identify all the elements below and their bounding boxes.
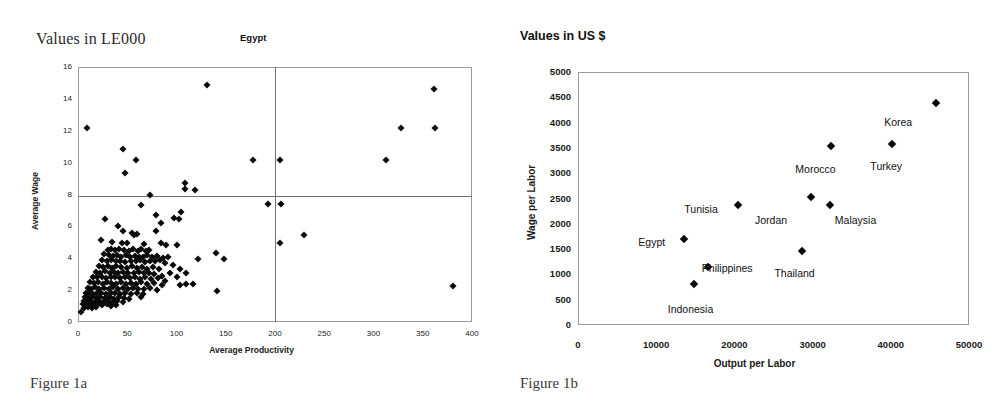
x-tick-label: 50000 (939, 339, 999, 350)
x-tick-label: 10000 (626, 339, 686, 350)
data-point-label-malaysia: Malaysia (835, 214, 876, 226)
data-point-label-indonesia: Indonesia (668, 303, 714, 315)
y-tick-label: 1500 (525, 243, 571, 254)
figure-1a: Values in LE000 Egypt 0246810121416 0501… (0, 0, 503, 403)
data-point-label-jordan: Jordan (755, 214, 787, 226)
y-tick-label: 4 (44, 253, 72, 262)
x-tick-label: 40000 (861, 339, 921, 350)
caption-a: Figure 1a (30, 375, 87, 392)
y-tick-label: 16 (44, 62, 72, 71)
reference-line-vertical (275, 67, 276, 322)
x-axis-label-b: Output per Labor (503, 358, 1006, 369)
x-tick-label: 30000 (783, 339, 843, 350)
data-point-label-tunisia: Tunisia (684, 203, 717, 215)
plot-area-b (578, 72, 969, 325)
x-tick-label: 350 (403, 329, 443, 338)
y-axis-label-a: Average Wage (30, 172, 40, 230)
x-tick-label: 0 (58, 329, 98, 338)
x-tick-label: 400 (452, 329, 492, 338)
data-point-label-morocco: Morocco (795, 163, 835, 175)
y-tick-label: 2 (44, 285, 72, 294)
data-point-label-philippines: Philippines (702, 262, 753, 274)
x-tick-label: 20000 (704, 339, 764, 350)
y-tick-label: 500 (525, 294, 571, 305)
y-tick-label: 4500 (525, 91, 571, 102)
y-tick-label: 0 (525, 319, 571, 330)
data-point-label-korea: Korea (884, 116, 912, 128)
data-point-label-thailand: Thailand (774, 267, 814, 279)
data-point-label-turkey: Turkey (870, 160, 902, 172)
x-tick-label: 0 (548, 339, 608, 350)
x-tick-label: 50 (107, 329, 147, 338)
y-tick-label: 3500 (525, 142, 571, 153)
x-axis-label-a: Average Productivity (0, 345, 503, 355)
y-tick-label: 6 (44, 221, 72, 230)
y-tick-label: 8 (44, 190, 72, 199)
x-tick-label: 150 (206, 329, 246, 338)
units-note-a: Values in LE000 (36, 30, 146, 48)
x-tick-label: 250 (304, 329, 344, 338)
y-axis-label-b: Wage per Labor (526, 165, 537, 240)
data-point-label-egypt: Egypt (638, 236, 665, 248)
chart-title-a: Egypt (240, 32, 266, 43)
caption-b: Figure 1b (520, 375, 578, 392)
y-tick-label: 1000 (525, 268, 571, 279)
y-tick-label: 4000 (525, 117, 571, 128)
y-tick-label: 12 (44, 126, 72, 135)
figure-1b: Values in US $ 0500100015002000250030003… (503, 0, 1006, 403)
y-tick-label: 5000 (525, 66, 571, 77)
y-tick-label: 0 (44, 317, 72, 326)
y-tick-label: 10 (44, 158, 72, 167)
units-note-b: Values in US $ (520, 29, 605, 43)
reference-line-horizontal (78, 196, 472, 197)
x-tick-label: 100 (157, 329, 197, 338)
y-tick-label: 14 (44, 94, 72, 103)
x-tick-label: 200 (255, 329, 295, 338)
x-tick-label: 300 (354, 329, 394, 338)
